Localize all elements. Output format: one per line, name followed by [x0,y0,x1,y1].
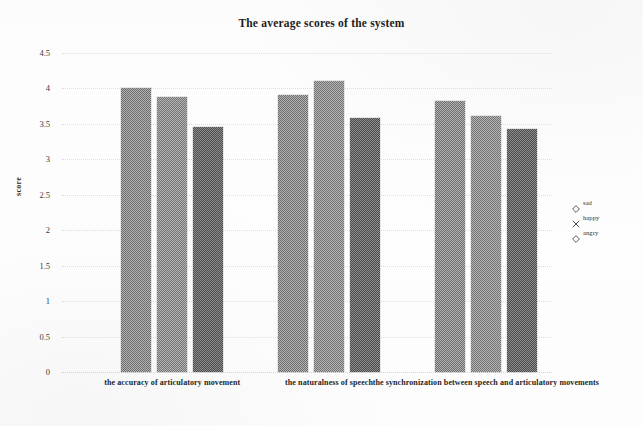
y-axis-tick: 4 [46,83,50,93]
y-axis-tick-labels: 4.543.532.521.510.50 [0,53,58,372]
bar-group [435,53,537,372]
x-axis-category-label: the synchronization between speech and a… [371,377,601,388]
legend-label: happy [583,214,599,221]
y-axis-tick: 0.5 [39,332,50,342]
bar-angry [350,118,380,372]
bar-happy [157,97,187,372]
plot-area [62,53,552,372]
bar-group [121,53,223,372]
diamond-marker [572,229,580,237]
bar-sad [121,88,151,372]
legend-label: angry [583,229,598,236]
cross-marker [572,214,580,222]
bar-sad [435,101,465,372]
y-axis-tick: 1 [46,296,50,306]
x-axis-category-label: the accuracy of articulatory movement [67,377,277,388]
y-axis-tick: 3 [46,154,50,164]
y-axis-tick: 4.5 [39,48,50,58]
bar-sad [278,95,308,372]
legend-entry-happy[interactable]: happy [572,211,638,224]
legend-label: sad [583,199,592,206]
diamond-marker [572,199,580,207]
bar-happy [471,116,501,372]
y-axis-tick: 1.5 [39,261,50,271]
chart-title: The average scores of the system [0,17,643,29]
legend-entry-sad[interactable]: sad [572,196,638,209]
x-axis-category-labels: the accuracy of articulatory movementthe… [62,374,552,418]
y-axis-tick: 2.5 [39,190,50,200]
bar-angry [507,129,537,372]
chart-legend: sadhappyangry [572,196,638,241]
chart-figure: The average scores of the system score 4… [0,0,643,426]
y-axis-tick: 0 [46,367,50,377]
y-axis-tick: 2 [46,225,50,235]
bar-happy [314,81,344,372]
legend-entry-angry[interactable]: angry [572,226,638,239]
y-axis-tick: 3.5 [39,119,50,129]
bar-group [278,53,380,372]
bar-angry [193,127,223,372]
